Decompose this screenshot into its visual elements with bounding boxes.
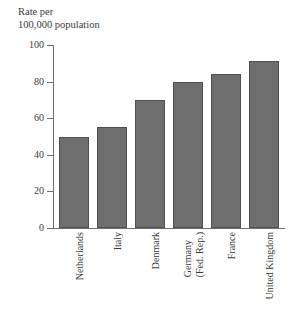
y-tick-0: 0 [0,228,53,229]
y-tick-label-80: 80 [34,75,44,88]
y-axis-title-line-1: Rate per [18,6,100,19]
bar-france [211,74,241,228]
y-tick-label-100: 100 [29,38,44,51]
y-tick-20: 20 [0,191,53,192]
x-category-denmark: Denmark [135,232,165,318]
x-category-label-germany: Germany (Fed. Rep.) [182,232,205,277]
y-tick-80: 80 [0,82,53,83]
y-tick-label-20: 20 [34,184,44,197]
x-category-germany: Germany (Fed. Rep.) [173,232,203,318]
y-tick-label-0: 0 [39,221,44,234]
x-category-label-france: France [226,232,238,259]
y-tick-40: 40 [0,155,53,156]
y-axis-title: Rate per 100,000 population [18,6,100,31]
bar-united-kingdom [249,61,279,228]
x-category-italy: Italy [97,232,127,318]
plot-area [53,45,285,228]
x-category-label-germany-line-2: (Fed. Rep.) [194,232,206,277]
x-category-united-kingdom: United Kingdom [249,232,279,318]
y-tick-60: 60 [0,118,53,119]
x-category-label-germany-line-1: Germany [182,240,193,277]
y-tick-100: 100 [0,45,53,46]
x-category-label-denmark: Denmark [150,232,162,269]
bar-italy [97,127,127,228]
x-axis-line [53,228,285,229]
bar-netherlands [59,137,89,229]
y-tick-label-40: 40 [34,148,44,161]
x-category-france: France [211,232,241,318]
y-axis-title-line-2: 100,000 population [18,19,100,32]
bar-germany [173,82,203,228]
bar-denmark [135,100,165,228]
bar-chart-figure: Rate per 100,000 population 100 80 60 40… [0,0,295,319]
x-category-netherlands: Netherlands [59,232,89,318]
x-category-label-united-kingdom: United Kingdom [264,232,276,300]
y-tick-mark-0 [47,228,53,229]
x-category-label-italy: Italy [112,232,124,250]
x-category-label-netherlands: Netherlands [74,232,86,280]
y-tick-label-60: 60 [34,111,44,124]
